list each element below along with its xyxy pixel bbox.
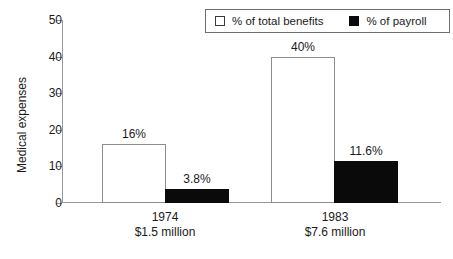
- y-tick-label: 50: [36, 14, 62, 26]
- x-category-1974: 1974 $1.5 million: [95, 210, 235, 240]
- bar-label-1974-payroll: 3.8%: [167, 172, 227, 186]
- x-category-label: 1974: [152, 210, 179, 224]
- y-tick-20: 20: [0, 124, 62, 136]
- legend-item-total-benefits[interactable]: % of total benefits: [215, 15, 323, 27]
- chart-legend: % of total benefits % of payroll: [205, 9, 450, 33]
- open-square-icon: [215, 16, 225, 26]
- y-tick-40: 40: [0, 51, 62, 63]
- bar-1974-payroll[interactable]: [165, 189, 229, 203]
- x-category-1983: 1983 $7.6 million: [265, 210, 405, 240]
- y-tick-label: 10: [36, 160, 62, 172]
- bar-chart-figure: Medical expenses 50 40 30 20 10 0 16% 3.…: [0, 0, 453, 259]
- bar-1983-payroll[interactable]: [334, 161, 398, 203]
- bar-label-1983-payroll: 11.6%: [336, 144, 396, 158]
- x-category-label: 1983: [322, 210, 349, 224]
- bar-label-1974-total-benefits: 16%: [104, 127, 164, 141]
- x-category-sublabel: $1.5 million: [95, 225, 235, 240]
- y-tick-0: 0: [0, 197, 62, 209]
- x-category-sublabel: $7.6 million: [265, 225, 405, 240]
- y-tick-label: 40: [36, 51, 62, 63]
- y-tick-label: 30: [36, 87, 62, 99]
- legend-label-payroll: % of payroll: [366, 15, 426, 27]
- y-axis-line: [62, 20, 63, 203]
- y-tick-30: 30: [0, 87, 62, 99]
- y-tick-label: 0: [36, 197, 62, 209]
- bar-1983-total-benefits[interactable]: [271, 57, 335, 203]
- y-tick-label: 20: [36, 124, 62, 136]
- legend-item-payroll[interactable]: % of payroll: [349, 15, 426, 27]
- filled-square-icon: [349, 16, 359, 26]
- y-tick-10: 10: [0, 160, 62, 172]
- bar-label-1983-total-benefits: 40%: [273, 40, 333, 54]
- y-tick-50: 50: [0, 14, 62, 26]
- legend-label-total-benefits: % of total benefits: [232, 15, 323, 27]
- bar-1974-total-benefits[interactable]: [102, 144, 166, 203]
